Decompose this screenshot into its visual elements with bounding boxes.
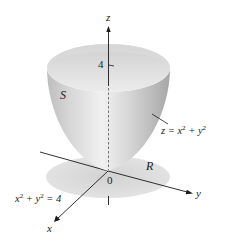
y-axis-arrowhead xyxy=(186,190,193,194)
z-axis-arrowhead xyxy=(106,26,110,32)
region-label-r: R xyxy=(146,160,153,172)
surface-equation: z = x2 + y2 xyxy=(161,125,206,137)
z-tick-label-4: 4 xyxy=(98,59,104,70)
surface-label-s: S xyxy=(60,89,66,101)
boundary-equation: x2 + y2 = 4 xyxy=(15,193,61,205)
diagram-graphics xyxy=(0,0,226,246)
paraboloid-diagram: z 4 S R 0 y x z = x2 + y2 x2 + y2 = 4 xyxy=(0,0,226,246)
y-axis-label: y xyxy=(196,188,201,199)
x-axis-label: x xyxy=(47,223,52,234)
origin-label: 0 xyxy=(107,175,113,186)
z-axis-label: z xyxy=(106,12,110,23)
